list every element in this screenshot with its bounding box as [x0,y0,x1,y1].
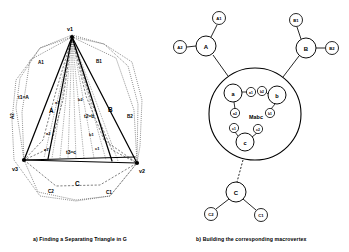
inner-small-node-c2-label: c2 [256,128,260,132]
edge-label-a1-lower: a1 [44,147,49,152]
inner-small-node-a2-label: a2 [233,112,237,116]
leaf-node-B1: B1 [290,14,303,27]
edge-B-B1 [297,27,301,39]
edge-label-b1: b1 [89,132,94,137]
outer-node-A-label: A [204,44,209,50]
edge-label-a2: a2 [46,131,51,136]
inner-small-node-c1-label: c1 [232,127,236,131]
panel-a-outer-envelope [12,35,142,201]
region-label-A1: A1 [38,60,44,65]
edge-A-to-macro [213,55,228,76]
edge-macro-to-C [237,160,243,182]
region-label-C: C [75,180,80,187]
panel-a-edge-labels: a1 a2 a1 b2 b1 c1 [44,97,100,152]
region-label-C2: C2 [48,189,54,194]
inner-node-c-label: c [243,140,246,146]
inner-small-node-a2: a2 [230,108,239,117]
vertex-label-v1: v1 [67,26,73,32]
region-label-A2: A2 [10,113,15,119]
panel-a-region-outlines [16,37,138,200]
vertex-dot-v2 [135,161,139,165]
vertex-dot-v1 [70,35,74,39]
caption-panel-b: b) Building the corresponding macroverte… [196,236,306,242]
figure-canvas: v1 v3 v2 A1 A2 B1 B2 C1 C2 A B C t1=A t2… [0,0,349,252]
inner-node-a: a [224,84,242,102]
inner-small-node-b2: b2 [257,86,266,95]
outer-node-C-label: C [234,190,239,196]
inner-small-node-b2-label: b2 [260,90,264,94]
triangle-label-t2: t2=b [84,113,94,119]
inner-small-node-b1-label: b1 [268,112,272,116]
edge-label-c1: c1 [95,146,100,151]
triangle-label-t3: t3=c [66,149,76,155]
region-label-B: B [108,106,113,113]
outer-node-B-label: B [304,46,309,52]
inner-node-b: b [268,86,286,104]
edge-A-A1 [211,25,217,37]
vertex-label-v2: v2 [139,168,145,174]
caption-panel-a: a) Finding a Separating Triangle in G [33,236,127,242]
leaf-node-A1: A1 [213,12,226,25]
region-label-B2: B2 [127,114,133,119]
inner-node-c: c [236,133,254,151]
outer-node-C: C [226,182,246,202]
panel-b-graph: a b c a1 a2 [174,12,339,222]
outer-node-B: B [296,38,316,58]
inner-small-node-a1: a1 [246,87,255,96]
leaf-node-A2-label: A2 [177,45,183,50]
panel-a-graph: v1 v3 v2 A1 A2 B1 B2 C1 C2 A B C t1=A t2… [10,26,145,201]
inner-node-b-label: b [275,93,279,99]
inner-small-node-c2: c2 [253,124,262,133]
leaf-node-B2: B2 [326,42,339,55]
leaf-node-C2-label: C2 [208,212,214,217]
edge-label-b2: b2 [78,97,83,102]
triangle-label-t1: t1=A [18,94,29,100]
inner-small-node-a1-label: a1 [249,91,253,95]
leaf-node-B1-label: B1 [293,18,299,23]
leaf-node-B2-label: B2 [329,46,335,51]
figure-root: v1 v3 v2 A1 A2 B1 B2 C1 C2 A B C t1=A t2… [0,0,349,252]
region-label-B1: B1 [96,59,102,64]
region-label-A: A [49,107,54,114]
outer-node-A: A [196,36,216,56]
edge-C-C2 [216,199,229,209]
edge-B-to-macro [283,56,299,77]
panel-a-region-label-group: A1 A2 B1 B2 C1 C2 A B C [10,59,133,195]
leaf-node-A1-label: A1 [216,16,222,21]
leaf-node-C1-label: C1 [258,213,264,218]
edge-C-C1 [243,199,256,210]
inner-small-node-b1: b1 [265,108,274,117]
edge-A-A2 [187,46,196,47]
leaf-node-C2: C2 [205,208,218,221]
vertex-dot-v3 [22,158,26,162]
vertex-label-v3: v3 [12,166,18,172]
macrovertex-label: Mabc [249,114,263,120]
leaf-node-C1: C1 [255,209,268,222]
leaf-node-A2: A2 [174,41,187,54]
inner-small-node-c1: c1 [229,123,238,132]
region-label-C1: C1 [106,190,112,195]
